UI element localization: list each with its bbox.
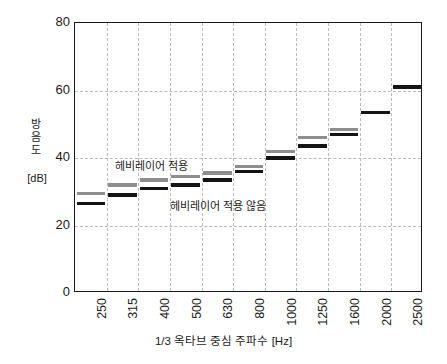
data-bar-not-applied bbox=[393, 85, 422, 88]
data-bar-not-applied bbox=[77, 202, 106, 205]
gridline-horizontal bbox=[75, 91, 421, 92]
data-bar-not-applied bbox=[298, 144, 327, 147]
y-axis-tick-label: 80 bbox=[36, 15, 70, 28]
x-axis-tick-label: 1250 bbox=[317, 298, 330, 326]
data-bar-applied bbox=[140, 178, 169, 181]
data-bar-not-applied bbox=[330, 133, 359, 136]
data-bar-applied bbox=[330, 128, 359, 131]
data-bar-applied bbox=[108, 183, 137, 186]
x-axis-tick-label: 500 bbox=[191, 298, 204, 319]
x-axis-title: 1/3 옥타브 중심 주파수 [Hz] bbox=[0, 334, 447, 348]
y-axis-tick-label: 20 bbox=[36, 218, 70, 231]
x-axis-tick-label: 400 bbox=[159, 298, 172, 319]
data-bar-applied bbox=[235, 165, 264, 168]
annotation-heavy-layer-applied: 헤비레이어 적용 bbox=[115, 160, 188, 173]
sound-insulation-chart: 방 음 도 [dB] 020406080 2503154005006308001… bbox=[0, 0, 447, 364]
x-axis-tick-label: 1600 bbox=[349, 298, 362, 326]
gridline-horizontal bbox=[75, 226, 421, 227]
data-bar-not-applied bbox=[140, 187, 169, 190]
data-bar-not-applied bbox=[203, 178, 232, 181]
gridline-vertical bbox=[360, 23, 361, 291]
annotation-heavy-layer-not-applied: 헤비레이어 적용 않음 bbox=[170, 200, 266, 213]
data-bar-not-applied bbox=[266, 156, 295, 159]
gridline-vertical bbox=[107, 23, 108, 291]
gridline-vertical bbox=[296, 23, 297, 291]
data-bar-applied bbox=[298, 136, 327, 139]
data-bar-not-applied bbox=[108, 193, 137, 196]
data-bar-not-applied bbox=[235, 170, 264, 173]
x-axis-tick-label: 2500 bbox=[412, 298, 425, 326]
data-bar-applied bbox=[266, 150, 295, 153]
y-axis-tick-label: 40 bbox=[36, 150, 70, 163]
gridline-horizontal bbox=[75, 158, 421, 159]
x-axis-tick-label: 315 bbox=[127, 298, 140, 319]
gridline-vertical bbox=[391, 23, 392, 291]
gridline-vertical bbox=[138, 23, 139, 291]
x-axis-tick-label: 2000 bbox=[381, 298, 394, 326]
gridline-vertical bbox=[202, 23, 203, 291]
data-bar-applied bbox=[203, 171, 232, 174]
data-bar-not-applied bbox=[171, 183, 200, 186]
x-axis-tick-label: 250 bbox=[96, 298, 109, 319]
plot-area bbox=[74, 22, 422, 292]
x-axis-tick-label: 800 bbox=[254, 298, 267, 319]
gridline-vertical bbox=[233, 23, 234, 291]
gridline-vertical bbox=[170, 23, 171, 291]
x-axis-tick-label: 630 bbox=[222, 298, 235, 319]
y-axis-ticks: 020406080 bbox=[30, 0, 70, 364]
y-axis-tick-label: 0 bbox=[36, 285, 70, 298]
y-axis-tick-label: 60 bbox=[36, 83, 70, 96]
data-bar-not-applied bbox=[361, 111, 390, 114]
data-bar-applied bbox=[77, 192, 106, 195]
x-axis-tick-label: 1000 bbox=[286, 298, 299, 326]
gridline-vertical bbox=[328, 23, 329, 291]
data-bar-applied bbox=[171, 175, 200, 178]
